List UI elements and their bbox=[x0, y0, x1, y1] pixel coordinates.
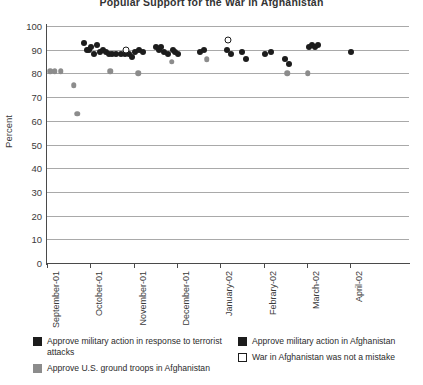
y-tick-label: 20 bbox=[16, 210, 42, 221]
gridline bbox=[47, 26, 409, 27]
x-tick-mark bbox=[264, 264, 265, 268]
chart-legend: Approve military action in response to t… bbox=[33, 336, 423, 384]
x-tick-label: Febrary-02 bbox=[268, 271, 278, 315]
data-point bbox=[108, 68, 114, 74]
gridline bbox=[47, 168, 409, 169]
legend-swatch-dark2-icon bbox=[238, 337, 247, 346]
y-axis-tick-labels: 0102030405060708090100 bbox=[10, 0, 42, 385]
y-tick-label: 90 bbox=[16, 44, 42, 55]
data-point bbox=[268, 49, 274, 55]
y-tick-label: 0 bbox=[16, 258, 42, 269]
data-point bbox=[225, 37, 232, 44]
data-point bbox=[75, 111, 81, 117]
data-point bbox=[239, 49, 245, 55]
x-tick-mark bbox=[47, 264, 48, 268]
data-point bbox=[201, 47, 207, 53]
data-point bbox=[228, 51, 234, 57]
x-tick-mark bbox=[90, 264, 91, 268]
x-axis-line bbox=[46, 263, 410, 264]
x-tick-label: November-01 bbox=[138, 271, 148, 326]
plot-area bbox=[47, 26, 409, 263]
legend-swatch-open-icon bbox=[238, 353, 247, 362]
y-tick-label: 60 bbox=[16, 115, 42, 126]
legend-column-left: Approve military action in response to t… bbox=[33, 336, 233, 379]
legend-item-not-a-mistake: War in Afghanistan was not a mistake bbox=[238, 352, 423, 363]
data-point bbox=[286, 61, 292, 67]
gridline bbox=[47, 239, 409, 240]
y-tick-label: 50 bbox=[16, 139, 42, 150]
legend-label-not-a-mistake: War in Afghanistan was not a mistake bbox=[252, 352, 395, 363]
data-point bbox=[52, 68, 58, 74]
legend-column-right: Approve military action in Afghanistan W… bbox=[238, 336, 423, 367]
x-tick-label: April-02 bbox=[354, 271, 364, 302]
gridline bbox=[47, 97, 409, 98]
data-point bbox=[243, 56, 249, 62]
x-tick-label: March-02 bbox=[311, 271, 321, 309]
data-point bbox=[284, 71, 290, 77]
y-tick-label: 80 bbox=[16, 68, 42, 79]
y-axis-label: Percent bbox=[3, 102, 14, 162]
legend-label-ground-troops: Approve U.S. ground troops in Afghanista… bbox=[47, 363, 210, 374]
gridline bbox=[47, 145, 409, 146]
y-tick-label: 70 bbox=[16, 92, 42, 103]
gridline bbox=[47, 192, 409, 193]
x-tick-mark bbox=[177, 264, 178, 268]
data-point bbox=[58, 68, 64, 74]
legend-item-ground-troops: Approve U.S. ground troops in Afghanista… bbox=[33, 363, 233, 374]
y-tick-label: 10 bbox=[16, 234, 42, 245]
gridline bbox=[47, 73, 409, 74]
x-tick-mark bbox=[220, 264, 221, 268]
legend-swatch-dark-icon bbox=[33, 337, 42, 346]
x-tick-label: October-01 bbox=[94, 271, 104, 316]
y-tick-label: 40 bbox=[16, 163, 42, 174]
data-point bbox=[94, 42, 100, 48]
legend-item-military-action-afghanistan: Approve military action in Afghanistan bbox=[238, 336, 423, 347]
x-tick-label: September-01 bbox=[51, 271, 61, 328]
data-point bbox=[315, 42, 321, 48]
data-point bbox=[122, 46, 129, 53]
y-tick-label: 30 bbox=[16, 186, 42, 197]
data-point bbox=[71, 83, 77, 89]
legend-swatch-gray-icon bbox=[33, 364, 42, 373]
legend-label-terrorist-attacks: Approve military action in response to t… bbox=[47, 336, 233, 357]
gridline bbox=[47, 216, 409, 217]
x-tick-mark bbox=[134, 264, 135, 268]
data-point bbox=[169, 59, 175, 65]
data-point bbox=[81, 40, 87, 46]
x-tick-label: January-02 bbox=[224, 271, 234, 316]
data-point bbox=[140, 49, 146, 55]
data-point bbox=[348, 49, 354, 55]
data-point bbox=[204, 56, 210, 62]
gridline bbox=[47, 121, 409, 122]
y-tick-label: 100 bbox=[16, 21, 42, 32]
x-tick-label: December-01 bbox=[181, 271, 191, 326]
chart-title: Popular Support for the War in Afghanist… bbox=[0, 0, 423, 8]
legend-label-military-action-afghanistan: Approve military action in Afghanistan bbox=[252, 336, 395, 347]
legend-item-terrorist-attacks: Approve military action in response to t… bbox=[33, 336, 233, 357]
data-point bbox=[305, 71, 311, 77]
data-point bbox=[135, 71, 141, 77]
data-point bbox=[175, 51, 181, 57]
x-tick-mark bbox=[350, 264, 351, 268]
x-tick-mark bbox=[307, 264, 308, 268]
